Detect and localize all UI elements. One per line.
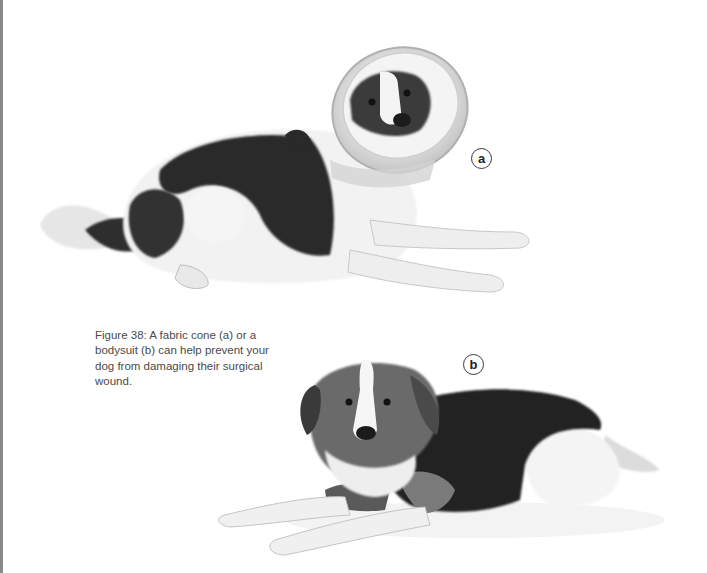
- figure-38: a b Figure 38: A fabr: [0, 0, 707, 573]
- photo-dog-with-bodysuit: [215, 355, 675, 560]
- marker-a: a: [471, 148, 492, 169]
- marker-b: b: [463, 354, 484, 375]
- figure-caption: Figure 38: A fabric cone (a) or a bodysu…: [95, 328, 275, 390]
